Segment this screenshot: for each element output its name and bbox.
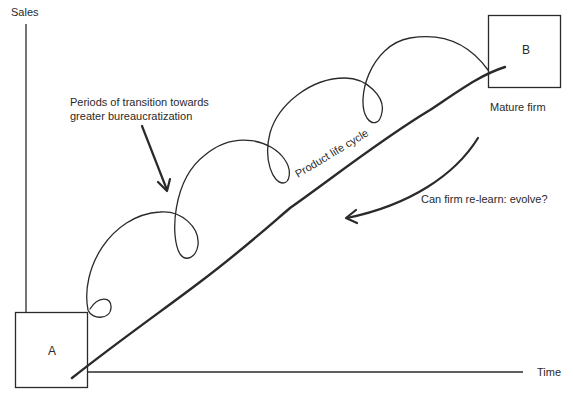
mature-firm-caption: Mature firm <box>490 101 546 114</box>
x-axis-label: Time <box>537 366 561 379</box>
transition-label-line1: Periods of transition towards <box>70 96 209 109</box>
box-b-label: B <box>522 44 530 57</box>
y-axis-label: Sales <box>11 6 39 19</box>
transition-label-line2: greater bureaucratization <box>70 110 192 123</box>
curve-label: Product life cycle <box>293 127 370 180</box>
transition-arrow <box>142 126 170 191</box>
re-learn-question: Can firm re-learn: evolve? <box>421 193 548 206</box>
transition-loops <box>87 37 488 318</box>
box-a-label: A <box>48 345 56 358</box>
re-learn-arrow <box>346 138 478 223</box>
